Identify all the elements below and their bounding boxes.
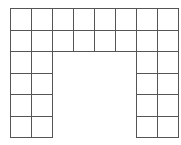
grid-cell — [136, 94, 158, 117]
grid-cell — [157, 116, 179, 138]
grid-cell — [136, 73, 158, 95]
grid-cell — [136, 30, 158, 52]
grid-cell — [94, 30, 116, 52]
grid-cell — [31, 116, 53, 138]
grid-cell — [31, 51, 53, 74]
grid-cell — [31, 8, 53, 31]
grid-cell — [157, 51, 179, 74]
grid-cell — [136, 8, 158, 31]
grid-cell — [73, 30, 95, 52]
grid-cell — [115, 30, 137, 52]
grid-cell — [157, 73, 179, 95]
grid-cell — [52, 8, 74, 31]
grid-cell — [10, 116, 32, 138]
grid-cell — [52, 30, 74, 52]
grid-cell — [10, 51, 32, 74]
grid-cell — [31, 73, 53, 95]
grid-cell — [10, 8, 32, 31]
grid-cell — [157, 94, 179, 117]
grid-cell — [94, 8, 116, 31]
grid-cell — [157, 8, 179, 31]
grid-cell — [10, 30, 32, 52]
grid-cell — [136, 116, 158, 138]
arch-grid-figure — [0, 0, 181, 145]
grid-cell — [73, 8, 95, 31]
grid-cell — [31, 94, 53, 117]
grid-cell — [115, 8, 137, 31]
grid-cell — [31, 30, 53, 52]
grid-cell — [10, 73, 32, 95]
grid-cell — [157, 30, 179, 52]
grid-cell — [136, 51, 158, 74]
grid-cell — [10, 94, 32, 117]
